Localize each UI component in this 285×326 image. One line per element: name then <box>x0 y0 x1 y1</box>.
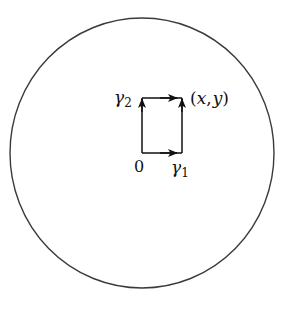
path-gamma2 <box>142 98 182 153</box>
origin-label: 0 <box>134 157 144 176</box>
endpoint-comma: , <box>206 88 211 108</box>
gamma1-label: γ1 <box>171 157 189 180</box>
endpoint-close-paren: ) <box>222 88 229 108</box>
endpoint-label: (x,y) <box>190 88 229 108</box>
diagram-canvas: 0 γ1 γ2 (x,y) <box>0 0 285 326</box>
endpoint-open-paren: ( <box>190 88 197 108</box>
gamma2-label: γ2 <box>114 87 132 110</box>
endpoint-x: x <box>197 88 207 108</box>
gamma1-subscript: 1 <box>181 166 189 180</box>
gamma2-subscript: 2 <box>124 96 132 110</box>
path-gamma1 <box>142 98 182 153</box>
endpoint-y: y <box>212 88 223 108</box>
